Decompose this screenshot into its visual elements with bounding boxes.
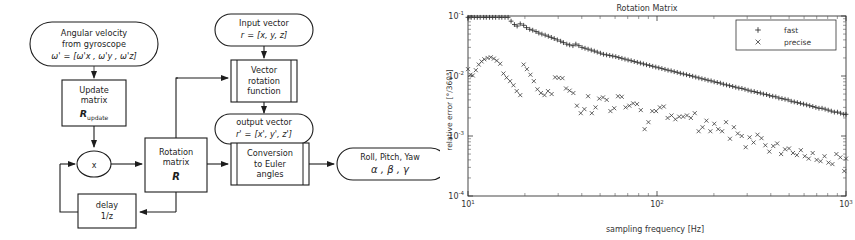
rotation-symbol: R	[172, 171, 180, 182]
x-tick-label: 102	[650, 199, 664, 210]
legend-label: precise	[784, 38, 811, 47]
y-tick-label: 10-1	[448, 10, 464, 21]
rpy-line2: α , β , γ	[371, 164, 410, 175]
input-vector-line1: Input vector	[239, 18, 289, 28]
rpy-line1: Roll, Pitch, Yaw	[360, 153, 420, 162]
vecrot-line2: rotation	[248, 76, 280, 86]
node-output-vector: output vector r'=[x', y', z']	[215, 114, 313, 144]
delay-line2: 1/z	[101, 211, 113, 221]
y-tick-label: 10-4	[448, 190, 464, 201]
gyro-line2: from gyroscope	[62, 39, 126, 49]
error-plot-panel: 10110210310-110-210-310-4fastprecise Rot…	[440, 0, 855, 240]
update-line1: Update	[79, 85, 109, 95]
block-diagram-panel: Angular velocity from gyroscope ω'=[ω'x …	[0, 0, 440, 240]
output-vector-formula: r'=[x', y', z']	[236, 129, 292, 139]
chart-ylabel: relative error [°/360°]	[445, 69, 454, 150]
euler-line3: angles	[257, 169, 284, 179]
input-vector-formula: r=[x, y, z]	[241, 30, 287, 40]
node-rotation-matrix: Rotation matrix R	[145, 138, 207, 192]
multiplier-label: x	[92, 161, 97, 170]
figure-root: Angular velocity from gyroscope ω'=[ω'x …	[0, 0, 855, 240]
gyro-formula: ω'=[ω'x , ω'y , ω'z]	[51, 51, 136, 61]
euler-line2: to Euler	[254, 159, 286, 169]
chart-title: Rotation Matrix	[616, 4, 677, 13]
wire-delay-back	[60, 164, 78, 212]
node-gyro: Angular velocity from gyroscope ω'=[ω'x …	[30, 22, 158, 66]
chart-xlabel: sampling frequency [Hz]	[606, 225, 704, 234]
vecrot-line3: function	[247, 86, 280, 96]
x-tick-label: 103	[839, 199, 853, 210]
chart-legend: fastprecise	[736, 20, 836, 50]
node-update-matrix: Update matrix Rupdate	[62, 80, 126, 126]
rotation-line1: Rotation	[159, 147, 193, 157]
gyro-line1: Angular velocity	[61, 28, 128, 38]
legend-label: fast	[784, 26, 798, 35]
node-delay: delay 1/z	[78, 194, 136, 228]
wire-rotation-up	[176, 78, 178, 138]
vecrot-line1: Vector	[251, 65, 278, 75]
update-line2: matrix	[81, 95, 108, 105]
node-euler-conversion: Conversion to Euler angles	[231, 143, 309, 185]
node-vector-rotation-function: Vector rotation function	[231, 60, 297, 102]
delay-line1: delay	[96, 200, 119, 210]
node-input-vector: Input vector r=[x, y, z]	[215, 14, 313, 46]
euler-line1: Conversion	[247, 148, 293, 158]
output-vector-line1: output vector	[236, 117, 292, 127]
rotation-line2: matrix	[163, 157, 190, 167]
node-multiplier: x	[77, 151, 111, 177]
node-roll-pitch-yaw: Roll, Pitch, Yaw α , β , γ	[337, 148, 440, 180]
x-tick-label: 101	[461, 199, 475, 210]
